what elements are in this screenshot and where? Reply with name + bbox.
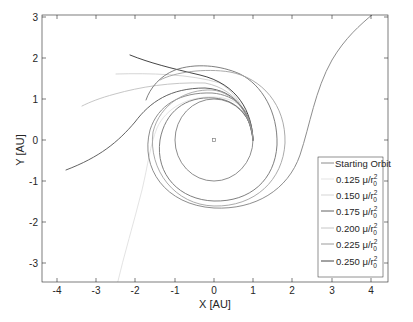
x-tick-label: -4 <box>53 285 62 296</box>
y-axis-label: Y [AU] <box>14 134 26 166</box>
y-tick-label: 2 <box>32 53 38 64</box>
y-tick-label: -3 <box>29 258 38 269</box>
legend-label: 0.200 μ/r20 <box>336 222 378 236</box>
legend-label: Starting Orbit <box>335 158 391 169</box>
legend: Starting Orbit 0.125 μ/r20 0.150 μ/r20 0… <box>318 157 391 277</box>
legend-label: 0.225 μ/r20 <box>336 238 378 252</box>
y-tick-label: 0 <box>32 135 38 146</box>
x-tick-label: 2 <box>289 285 295 296</box>
x-tick-label: 0 <box>211 285 217 296</box>
y-tick-label: 1 <box>32 94 38 105</box>
x-tick-label: 4 <box>368 285 374 296</box>
x-tick-label: 3 <box>329 285 335 296</box>
orbit-figure: -4 -3 -2 -1 0 1 2 3 4 3 2 1 0 -1 -2 -3 X… <box>0 0 413 322</box>
legend-label: 0.150 μ/r20 <box>336 189 378 203</box>
x-tick-label: -2 <box>131 285 140 296</box>
x-tick-label: 1 <box>250 285 256 296</box>
legend-label: 0.250 μ/r20 <box>336 255 378 269</box>
x-axis-label: X [AU] <box>199 298 231 310</box>
y-tick-label: 3 <box>32 12 38 23</box>
legend-label: 0.175 μ/r20 <box>336 205 378 219</box>
x-tick-label: -3 <box>92 285 101 296</box>
y-tick-label: -1 <box>29 176 38 187</box>
y-tick-label: -2 <box>29 217 38 228</box>
x-tick-labels: -4 -3 -2 -1 0 1 2 3 4 <box>53 285 375 296</box>
legend-label: 0.125 μ/r20 <box>336 173 378 187</box>
y-tick-labels: 3 2 1 0 -1 -2 -3 <box>29 12 38 269</box>
x-tick-label: -1 <box>171 285 180 296</box>
